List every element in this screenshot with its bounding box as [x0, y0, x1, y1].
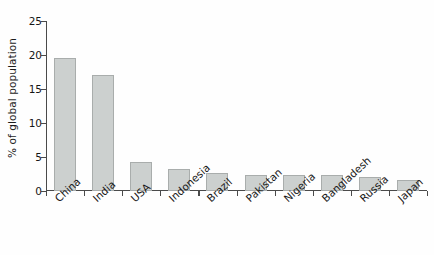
- x-axis-tick-label: China: [53, 176, 82, 204]
- x-axis-tick-mark: [122, 191, 123, 196]
- x-axis-tick-mark: [313, 191, 314, 196]
- y-axis-tick-mark: [41, 21, 46, 22]
- x-axis-tick-labels: ChinaIndiaUSAIndonesiaBrazilPakistanNige…: [0, 0, 434, 255]
- bar-chart: % of global population 0510152025 ChinaI…: [0, 0, 434, 255]
- x-axis-tick-label: Pakistan: [244, 167, 284, 204]
- y-axis-tick-mark: [41, 55, 46, 56]
- x-axis-tick-label: Brazil: [205, 176, 234, 203]
- x-axis-tick-label: Nigeria: [282, 171, 317, 204]
- x-axis-tick-mark: [46, 191, 47, 196]
- x-axis-tick-mark: [198, 191, 199, 196]
- x-axis-tick-label: Japan: [396, 176, 425, 203]
- x-axis-tick-mark: [389, 191, 390, 196]
- x-axis-tick-label: Russia: [358, 173, 390, 203]
- x-axis-tick-mark: [160, 191, 161, 196]
- x-axis-tick-mark: [351, 191, 352, 196]
- x-axis-tick-label: India: [91, 179, 117, 204]
- y-axis-tick-mark: [41, 157, 46, 158]
- x-axis-tick-label: USA: [129, 181, 152, 203]
- x-axis-tick-mark: [237, 191, 238, 196]
- y-axis-tick-mark: [41, 123, 46, 124]
- y-axis-tick-mark: [41, 89, 46, 90]
- x-axis-tick-mark: [84, 191, 85, 196]
- x-axis-tick-mark: [427, 191, 428, 196]
- x-axis-tick-mark: [275, 191, 276, 196]
